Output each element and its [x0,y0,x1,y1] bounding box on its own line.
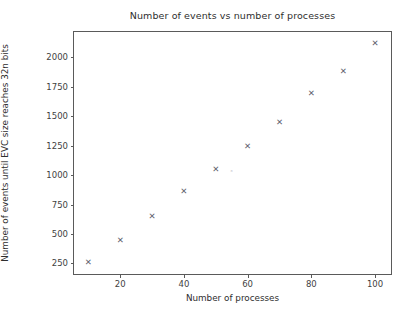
x-tick-mark [248,274,249,278]
x-tick-mark [311,274,312,278]
chart-title: Number of events vs number of processes [73,10,392,21]
x-tick-label: 20 [115,279,126,289]
y-tick-mark [71,175,75,176]
data-point: ✕ [230,170,233,173]
x-axis-label: Number of processes [73,293,392,303]
y-tick-mark [71,116,75,117]
x-tick-mark [120,274,121,278]
x-tick-mark [375,274,376,278]
y-tick-label: 1000 [46,170,68,180]
data-point: ✕ [85,258,92,267]
x-tick-label: 60 [242,279,253,289]
x-tick-label: 80 [306,279,317,289]
chart-figure: Number of events vs number of processes … [0,0,411,314]
y-axis-label: Number of events until EVC size reaches … [0,31,14,275]
data-point: ✕ [180,187,187,196]
x-tick-label: 40 [178,279,189,289]
data-point: ✕ [308,88,315,97]
data-point: ✕ [244,142,251,151]
y-tick-mark [71,57,75,58]
y-tick-label: 500 [52,229,68,239]
x-tick-mark [184,274,185,278]
data-point: ✕ [212,165,219,174]
data-point: ✕ [340,67,347,76]
data-point: ✕ [117,236,124,245]
data-point: ✕ [148,212,155,221]
data-point: ✕ [276,118,283,127]
y-tick-mark [71,87,75,88]
y-tick-label: 1250 [46,141,68,151]
y-tick-mark [71,205,75,206]
y-tick-mark [71,146,75,147]
x-tick-label: 100 [367,279,383,289]
y-tick-mark [71,234,75,235]
plot-area: ✕✕✕✕✕✕✕✕✕✕✕ 2505007501000125015001750200… [73,31,392,275]
y-tick-label: 250 [52,258,68,268]
y-tick-mark [71,263,75,264]
data-point: ✕ [372,39,379,48]
scatter-series: ✕✕✕✕✕✕✕✕✕✕✕ [74,32,391,274]
y-tick-label: 750 [52,200,68,210]
y-tick-label: 1500 [46,111,68,121]
y-tick-label: 1750 [46,82,68,92]
y-tick-label: 2000 [46,52,68,62]
